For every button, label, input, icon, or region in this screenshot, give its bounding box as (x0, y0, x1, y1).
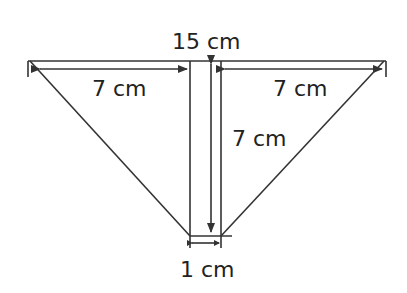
height-label: 7 cm (232, 128, 287, 150)
left-segment-label: 7 cm (92, 78, 147, 100)
right-segment-label: 7 cm (273, 78, 328, 100)
bottom-width-label: 1 cm (180, 259, 235, 281)
top-width-label: 15 cm (172, 31, 241, 53)
